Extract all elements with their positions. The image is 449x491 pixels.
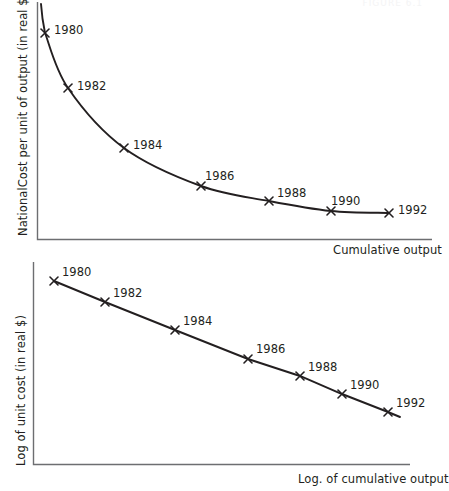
chart-unit-cost-svg: 1980198219841986198819901992 [0, 0, 441, 250]
chart-log-unit-cost-svg: 1980198219841986198819901992 [0, 250, 441, 491]
chart-unit-cost-panel: 1980198219841986198819901992 NationalCos… [0, 0, 441, 250]
chart-log-unit-cost-panel: 1980198219841986198819901992 Log of unit… [0, 250, 441, 491]
data-point-label: 1986 [205, 169, 234, 183]
data-point-label: 1992 [396, 396, 425, 410]
axes-lines-top [38, 2, 433, 240]
data-point-label: 1982 [113, 286, 142, 300]
data-point-label: 1992 [398, 203, 427, 217]
y-axis-title-log-unit-cost: Log of unit cost (in real $) [14, 315, 28, 466]
data-point-label: 1984 [133, 138, 162, 152]
data-point-label: 1988 [277, 186, 306, 200]
data-point-label: 1990 [350, 378, 379, 392]
data-point-labels-bottom: 1980198219841986198819901992 [62, 265, 425, 410]
x-axis-title-log-cumulative-output: Log. of cumulative output [298, 472, 449, 486]
data-point-label: 1980 [54, 23, 83, 37]
data-point-markers-top [41, 29, 393, 217]
data-point-labels-top: 1980198219841986198819901992 [54, 23, 427, 217]
data-point-label: 1990 [331, 194, 360, 208]
data-point-label: 1982 [77, 79, 106, 93]
data-point-label: 1986 [256, 342, 285, 356]
data-point-label: 1980 [62, 265, 91, 279]
data-point-label: 1988 [308, 360, 337, 374]
data-point-markers-bottom [50, 277, 392, 416]
axes-lines-bottom [34, 262, 411, 465]
data-point-label: 1984 [183, 314, 212, 328]
y-axis-title-unit-cost: NationalCost per unit of output (in real… [16, 0, 30, 236]
